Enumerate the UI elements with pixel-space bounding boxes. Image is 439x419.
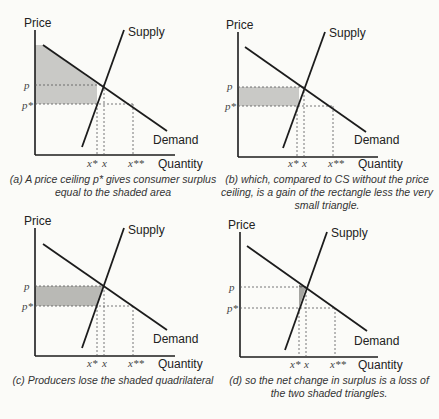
x-star-label: x* [287, 157, 299, 169]
x-double-star-label: x** [127, 357, 144, 369]
x-double-star-label: x** [327, 157, 344, 169]
x-label: x [303, 358, 309, 370]
quantity-axis-label: Quantity [358, 358, 403, 372]
shaded-consumer-surplus [35, 45, 97, 104]
caption-d: (d) so the net change in surplus is a lo… [222, 374, 436, 400]
caption-b: (b) which, compared to CS without the pr… [218, 173, 436, 212]
supply-label: Supply [331, 226, 368, 240]
demand-label: Demand [354, 133, 399, 147]
demand-label: Demand [354, 334, 399, 348]
p-label: p [23, 280, 30, 292]
x-label: x [301, 157, 307, 169]
x-star-label: x* [289, 358, 301, 370]
x-star-label: x* [86, 157, 98, 169]
p-star-label: p* [21, 99, 34, 111]
p-star-label: p* [226, 302, 239, 314]
p-label: p [23, 79, 30, 91]
x-label: x [101, 157, 107, 169]
supply-label: Supply [128, 223, 165, 237]
caption-a: (a) A price ceiling p* gives consumer su… [8, 173, 218, 199]
demand-label: Demand [153, 332, 198, 346]
demand-label: Demand [153, 133, 198, 147]
x-star-label: x* [86, 357, 98, 369]
x-double-star-label: x** [329, 358, 346, 370]
x-double-star-label: x** [127, 157, 144, 169]
price-axis-label: Price [226, 18, 254, 32]
price-axis-label: Price [24, 16, 52, 30]
shaded-triangle-left [299, 287, 306, 308]
p-label: p [226, 80, 233, 92]
price-axis-label: Price [228, 218, 256, 232]
p-star-label: p* [21, 300, 34, 312]
quantity-axis-label: Quantity [158, 157, 203, 171]
p-star-label: p* [224, 100, 237, 112]
supply-label: Supply [329, 26, 366, 40]
supply-label: Supply [128, 25, 165, 39]
x-label: x [101, 357, 107, 369]
price-axis-label: Price [24, 214, 52, 228]
shaded-rectangle [238, 87, 299, 106]
shaded-quadrilateral [35, 286, 104, 306]
quantity-axis-label: Quantity [158, 357, 203, 371]
caption-c: (c) Producers lose the shaded quadrilate… [2, 374, 224, 387]
quantity-axis-label: Quantity [358, 157, 403, 171]
p-label: p [228, 281, 235, 293]
